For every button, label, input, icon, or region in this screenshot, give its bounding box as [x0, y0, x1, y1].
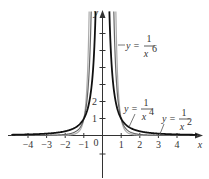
curve-1x6	[11, 11, 89, 135]
svg-text:y =: y =	[123, 103, 138, 114]
svg-text:−3: −3	[41, 139, 52, 150]
svg-text:1: 1	[182, 107, 187, 118]
svg-text:−4: −4	[23, 139, 34, 150]
y-axis-arrow-icon	[100, 10, 106, 18]
annotation-x4: y = 1 x 4	[123, 97, 154, 127]
svg-text:1: 1	[144, 97, 149, 108]
svg-text:2: 2	[137, 139, 142, 150]
svg-text:y =: y =	[161, 113, 176, 124]
curve-1x2	[11, 11, 95, 134]
svg-text:x: x	[143, 48, 149, 59]
power-functions-chart: −4 −3 −2 −1 1 2 3 4 0 1 2 x y y = 1 x 6 …	[0, 0, 209, 179]
svg-text:−1: −1	[78, 139, 89, 150]
svg-text:4: 4	[175, 139, 180, 150]
y-tick-label-2: 2	[92, 96, 97, 107]
svg-text:4: 4	[149, 106, 154, 117]
svg-text:x: x	[141, 111, 147, 122]
origin-label: 0	[94, 137, 99, 148]
svg-text:6: 6	[152, 43, 157, 54]
svg-text:3: 3	[156, 139, 161, 150]
y-tick-label-1: 1	[92, 113, 97, 124]
annotation-x6: y = 1 x 6	[118, 33, 157, 59]
svg-text:y =: y =	[125, 40, 140, 51]
annotation-x2: y = 1 x 2	[160, 107, 192, 134]
x-tick-labels: −4 −3 −2 −1 1 2 3 4	[23, 139, 180, 150]
svg-text:x: x	[179, 121, 185, 132]
svg-text:2: 2	[187, 116, 192, 127]
x-axis-label: x	[197, 139, 203, 150]
svg-text:1: 1	[147, 33, 152, 44]
svg-text:1: 1	[119, 139, 124, 150]
curve-1x4	[11, 11, 91, 135]
svg-text:−2: −2	[60, 139, 71, 150]
